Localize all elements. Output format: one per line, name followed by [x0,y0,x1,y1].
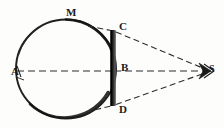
point-label-M: M [66,7,76,18]
point-label-B: B [121,62,128,73]
circle-outline [16,20,116,119]
point-label-C: C [119,21,127,32]
point-label-S: S [209,64,215,74]
point-label-D: D [119,104,127,115]
point-label-A: A [11,66,19,77]
figure-canvas: A M C B D S [0,0,224,128]
diagram-svg [0,0,224,128]
dashed-ray-C-to-S [88,26,205,69]
vertical-bar-CD [111,30,117,106]
dashed-ray-D-to-S [86,73,205,112]
